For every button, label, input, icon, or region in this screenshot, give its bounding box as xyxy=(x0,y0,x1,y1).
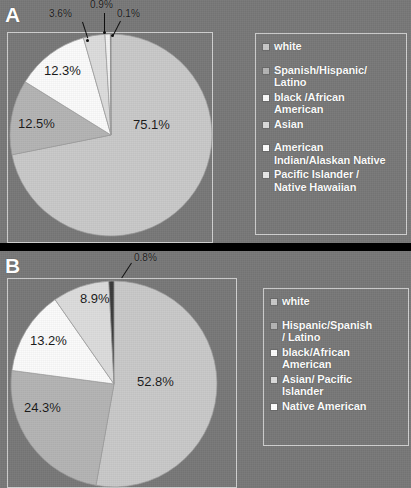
legend-swatch-white xyxy=(270,298,278,306)
legend-b: white Hispanic/Spanish / Latino black/Af… xyxy=(263,288,409,446)
slice-label-a-black: 12.3% xyxy=(44,64,81,77)
legend-label-a-american-indian: American Indian/Alaskan Native xyxy=(274,141,386,166)
legend-label-b-hispanic: Hispanic/Spanish / Latino xyxy=(282,319,372,344)
legend-swatch-native-american xyxy=(270,403,278,411)
legend-label-b-native-american: Native American xyxy=(282,400,366,413)
legend-swatch-pacific-islander xyxy=(262,171,270,179)
legend-item-a-white[interactable]: white xyxy=(262,40,402,53)
legend-swatch-black xyxy=(270,349,278,357)
pie-slice xyxy=(11,370,114,485)
panel-b: B 52.8% 24.3% 13.2% 8.9% 0.8% white Hisp… xyxy=(0,251,411,488)
pie-b-svg xyxy=(10,280,218,488)
legend-item-b-white[interactable]: white xyxy=(270,295,404,308)
slice-label-b-white: 52.8% xyxy=(137,375,174,388)
leader-dot-a-asian xyxy=(86,39,89,42)
slice-label-b-native-american: 0.8% xyxy=(134,253,157,263)
legend-swatch-black xyxy=(262,94,270,102)
legend-label-a-black: black /African American xyxy=(274,91,345,116)
legend-swatch-asian xyxy=(262,121,270,129)
slice-label-a-asian: 3.6% xyxy=(49,9,72,19)
legend-item-a-american-indian[interactable]: American Indian/Alaskan Native xyxy=(262,141,402,166)
legend-swatch-hispanic xyxy=(270,322,278,330)
legend-label-b-white: white xyxy=(282,295,310,308)
legend-label-a-asian: Asian xyxy=(274,118,303,131)
leader-dot-a-pacific-islander xyxy=(111,34,114,37)
leader-line-a-american-indian xyxy=(104,13,105,32)
legend-item-a-black[interactable]: black /African American xyxy=(262,91,402,116)
leader-dot-a-american-indian xyxy=(103,31,106,34)
slice-label-b-asian: 8.9% xyxy=(80,292,110,305)
legend-label-a-white: white xyxy=(274,40,302,53)
legend-swatch-white xyxy=(262,43,270,51)
panel-a-letter: A xyxy=(5,4,20,25)
legend-item-a-pacific-islander[interactable]: Pacific Islander / Native Hawaiian xyxy=(262,168,402,193)
slice-label-b-black: 13.2% xyxy=(30,334,67,347)
slice-label-a-pacific-islander: 0.1% xyxy=(117,9,140,19)
panel-b-letter: B xyxy=(5,255,20,276)
legend-item-b-hispanic[interactable]: Hispanic/Spanish / Latino xyxy=(270,319,404,344)
slice-label-a-white: 75.1% xyxy=(133,118,170,131)
legend-item-b-asian-pacific[interactable]: Asian/ Pacific Islander xyxy=(270,373,404,398)
legend-item-a-asian[interactable]: Asian xyxy=(262,118,402,131)
legend-swatch-asian-pacific xyxy=(270,376,278,384)
legend-item-a-hispanic[interactable]: Spanish/Hispanic/ Latino xyxy=(262,64,402,89)
legend-label-b-asian-pacific: Asian/ Pacific Islander xyxy=(282,373,352,398)
slice-label-a-hispanic: 12.5% xyxy=(18,117,55,130)
legend-a: white Spanish/Hispanic/ Latino black /Af… xyxy=(255,33,407,235)
legend-label-a-hispanic: Spanish/Hispanic/ Latino xyxy=(274,64,367,89)
slice-label-a-american-indian: 0.9% xyxy=(90,0,113,10)
legend-swatch-american-indian xyxy=(262,144,270,152)
figure-root: A 75.1% 12.5% 12.3% 3.6% 0.9% 0.1% white… xyxy=(0,0,411,488)
pie-chart-a xyxy=(9,33,213,237)
legend-item-b-native-american[interactable]: Native American xyxy=(270,400,404,413)
pie-chart-b xyxy=(10,280,218,488)
legend-item-b-black[interactable]: black/African American xyxy=(270,346,404,371)
slice-label-b-hispanic: 24.3% xyxy=(24,401,61,414)
legend-swatch-hispanic xyxy=(262,67,270,75)
pie-a-svg xyxy=(9,33,213,237)
leader-line-b-native-american xyxy=(121,263,132,279)
legend-label-a-pacific-islander: Pacific Islander / Native Hawaiian xyxy=(274,168,359,193)
legend-label-b-black: black/African American xyxy=(282,346,350,371)
panel-a: A 75.1% 12.5% 12.3% 3.6% 0.9% 0.1% white… xyxy=(0,0,411,243)
